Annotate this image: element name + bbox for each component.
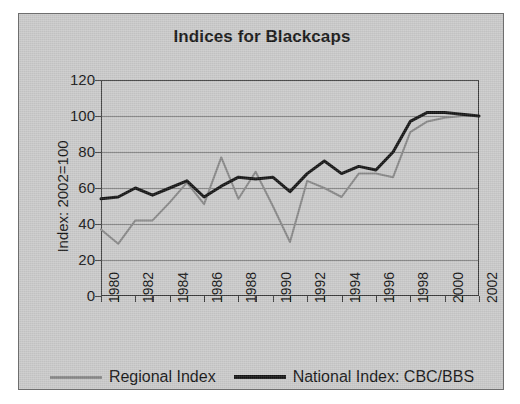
x-axis-tick-mark [410, 296, 411, 302]
x-axis-tick-mark [445, 296, 446, 302]
chart-figure: Indices for Blackcaps Index: 2002=100 02… [0, 0, 520, 404]
x-axis-tick-mark [307, 296, 308, 302]
legend-label: Regional Index [109, 368, 216, 386]
y-axis-tick-label: 20 [55, 252, 95, 267]
x-axis-tick-label: 1992 [313, 272, 327, 303]
x-axis-tick-label: 1994 [348, 272, 362, 303]
x-axis-tick-label: 1990 [279, 272, 293, 303]
series-line [101, 116, 479, 244]
x-axis-tick-mark [101, 296, 102, 302]
legend-entry[interactable]: Regional Index [50, 368, 216, 386]
y-axis-tick-label: 120 [55, 72, 95, 87]
series-lines [101, 80, 479, 296]
x-axis-tick-label: 1986 [210, 272, 224, 303]
y-axis-tick-label: 80 [55, 144, 95, 159]
x-axis-tick-labels: 1980198219841986198819901992199419961998… [101, 303, 479, 365]
legend-label: National Index: CBC/BBS [293, 368, 474, 386]
y-axis-tick-mark [95, 260, 102, 261]
x-axis-tick-mark [135, 296, 136, 302]
y-axis-tick-mark [95, 80, 102, 81]
x-axis-tick-label: 1980 [107, 272, 121, 303]
legend-entry[interactable]: National Index: CBC/BBS [234, 368, 474, 386]
y-axis-tick-mark [95, 116, 102, 117]
plot-area [101, 80, 479, 296]
x-axis-tick-label: 1998 [416, 272, 430, 303]
legend-line-swatch-icon [50, 376, 102, 379]
x-axis-tick-mark [238, 296, 239, 302]
x-axis-tick-mark [170, 296, 171, 302]
x-axis-tick-label: 2000 [451, 272, 465, 303]
chart-legend: Regional IndexNational Index: CBC/BBS [19, 364, 504, 390]
x-axis-tick-mark [342, 296, 343, 302]
x-axis-tick-label: 1988 [244, 272, 258, 303]
x-axis-tick-mark [204, 296, 205, 302]
x-axis-tick-label: 1996 [382, 272, 396, 303]
legend-line-swatch-icon [234, 375, 286, 379]
y-axis-tick-mark [95, 224, 102, 225]
y-axis-tick-label: 40 [55, 216, 95, 231]
chart-panel: Indices for Blackcaps Index: 2002=100 02… [18, 13, 504, 390]
x-axis-tick-mark [376, 296, 377, 302]
x-axis-tick-mark [273, 296, 274, 302]
y-axis-tick-label: 0 [55, 288, 95, 303]
y-axis-tick-label: 60 [55, 180, 95, 195]
y-axis-tick-labels: 020406080100120 [51, 80, 95, 296]
y-axis-tick-label: 100 [55, 108, 95, 123]
x-axis-tick-mark [479, 296, 480, 302]
y-axis-tick-mark [95, 152, 102, 153]
y-axis-tick-mark [95, 188, 102, 189]
chart-title: Indices for Blackcaps [19, 27, 504, 47]
x-axis-tick-label: 1984 [176, 272, 190, 303]
x-axis-tick-label: 2002 [485, 272, 499, 303]
x-axis-tick-label: 1982 [141, 272, 155, 303]
